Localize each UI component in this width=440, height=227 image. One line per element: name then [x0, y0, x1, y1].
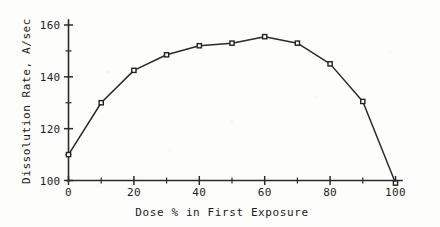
x-axis-title: Dose % in First Exposure [135, 206, 308, 219]
dissolution-rate-line-chart: 100120140160 020406080100 Dose % in Firs… [0, 0, 440, 227]
y-tick-label: 100 [40, 175, 61, 188]
data-point-marker [361, 99, 365, 103]
chart-figure: 100120140160 020406080100 Dose % in Firs… [0, 0, 440, 227]
x-tick-label: 100 [385, 186, 406, 199]
x-tick-label: 40 [192, 186, 206, 199]
data-point-marker [295, 41, 299, 45]
y-tick-label: 140 [40, 71, 61, 84]
x-tick-label: 80 [323, 186, 337, 199]
x-tick-label: 0 [65, 186, 72, 199]
data-point-marker [328, 62, 332, 66]
data-point-marker [197, 44, 201, 48]
x-tick-label: 20 [127, 186, 141, 199]
data-point-marker [99, 101, 103, 105]
y-axis-title: Dissolution Rate, A/sec [20, 18, 33, 184]
data-point-marker [393, 181, 397, 185]
data-point-marker [165, 53, 169, 57]
data-point-marker [66, 152, 70, 156]
data-point-marker [263, 35, 267, 39]
data-point-marker [132, 68, 136, 72]
data-point-marker [230, 41, 234, 45]
x-tick-label: 60 [258, 186, 272, 199]
y-tick-label: 120 [40, 123, 61, 136]
y-tick-label: 160 [40, 19, 61, 32]
